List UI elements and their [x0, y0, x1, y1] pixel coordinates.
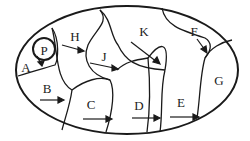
region-label-p: P — [40, 44, 47, 57]
region-label-g: G — [214, 74, 223, 87]
outer-boundary — [16, 6, 238, 134]
region-label-k: K — [139, 25, 148, 38]
region-label-e: E — [177, 96, 185, 109]
diagram-canvas: P A H B J C K D F E G — [0, 0, 250, 141]
region-label-a: A — [21, 61, 30, 74]
region-label-d: D — [134, 99, 143, 112]
diagram-lines — [0, 0, 250, 141]
region-label-c: C — [87, 98, 96, 111]
region-label-h: H — [70, 30, 79, 43]
region-label-f: F — [190, 25, 197, 38]
region-label-j: J — [101, 50, 106, 63]
region-label-b: B — [43, 82, 52, 95]
